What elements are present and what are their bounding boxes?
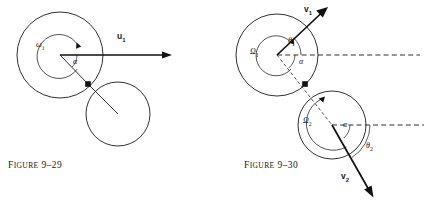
label-alpha-lower: α bbox=[343, 121, 347, 129]
label-v-1: v1 bbox=[304, 5, 312, 16]
label-alpha-lower-glyph: α bbox=[343, 120, 347, 129]
label-theta-2: θ2 bbox=[366, 142, 373, 152]
label-v-2: v2 bbox=[341, 172, 349, 183]
caption-9-29-rest: IGURE bbox=[14, 161, 39, 170]
label-omega-capital-2: Ω2 bbox=[303, 117, 312, 127]
label-u-1-subscript: 1 bbox=[122, 37, 125, 43]
label-alpha-upper: α bbox=[299, 58, 303, 66]
caption-figure-9-29: FIGURE9–29 bbox=[8, 160, 62, 170]
label-alpha-left: α bbox=[73, 58, 77, 66]
spin-arc-arrowhead-left bbox=[76, 43, 81, 49]
caption-9-29-number: 9–29 bbox=[42, 160, 62, 170]
label-u-1: u1 bbox=[117, 32, 126, 43]
velocity-vector-u1-arrowhead bbox=[162, 51, 172, 58]
label-omega-capital-2-subscript: 2 bbox=[309, 121, 312, 127]
label-v-1-subscript: 1 bbox=[309, 10, 312, 16]
label-alpha-left-glyph: α bbox=[73, 57, 77, 66]
label-theta-1-subscript: 1 bbox=[292, 41, 295, 47]
velocity-vector-v1-shaft bbox=[277, 13, 322, 56]
spin-arc-omega-capital-1 bbox=[256, 36, 291, 76]
caption-9-30-number: 9–30 bbox=[278, 160, 298, 170]
velocity-vector-v2-shaft bbox=[332, 125, 369, 190]
figures-vector-canvas bbox=[0, 0, 425, 201]
label-omega-capital-1-subscript: 1 bbox=[256, 52, 259, 58]
caption-9-30-rest: IGURE bbox=[250, 161, 275, 170]
label-omega-1: ω1 bbox=[36, 41, 45, 51]
caption-figure-9-30: FIGURE9–30 bbox=[244, 160, 298, 170]
contact-point-right bbox=[302, 81, 308, 87]
label-omega-1-subscript: 1 bbox=[42, 45, 45, 51]
line-of-centers-right bbox=[277, 55, 332, 125]
figure-9-29-graphics bbox=[17, 12, 172, 146]
label-omega-capital-1: Ω1 bbox=[250, 48, 259, 58]
label-theta-2-subscript: 2 bbox=[370, 146, 373, 152]
secondary-radius-left bbox=[88, 84, 118, 114]
contact-point-left bbox=[85, 81, 91, 87]
label-theta-1: θ1 bbox=[288, 37, 295, 47]
velocity-vector-v2-arrowhead bbox=[364, 185, 373, 197]
label-alpha-upper-glyph: α bbox=[299, 57, 303, 66]
spin-arc-arrowhead-lower-right bbox=[319, 96, 325, 102]
figure-page: ω1 α u1 Ω1 θ1 α v1 Ω2 α θ2 v2 FIGURE9–29… bbox=[0, 0, 425, 201]
label-v-2-subscript: 2 bbox=[346, 177, 349, 183]
angle-arc-alpha-upper bbox=[289, 55, 295, 68]
